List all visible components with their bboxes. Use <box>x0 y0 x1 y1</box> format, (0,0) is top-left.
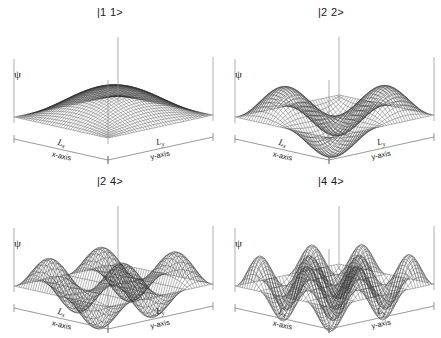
svg-text:Lx: Lx <box>277 137 288 150</box>
svg-text:Ly: Ly <box>375 136 386 149</box>
axis-frame <box>14 206 213 313</box>
dimension-lines: Lxx-axisLyy-axis <box>14 133 213 164</box>
panel-state-2-2: |2 2> ψ Lxx-axisLyy-axis <box>221 0 441 169</box>
surface-mesh <box>235 85 434 157</box>
panel-state-2-4: |2 4> ψ Lxx-axisLyy-axis <box>0 169 220 338</box>
dimension-lines: Lxx-axisLyy-axis <box>235 133 434 164</box>
svg-text:Lx: Lx <box>56 137 67 150</box>
figure-panel-grid: |1 1> ψ Lxx-axisLyy-axis |2 2> ψ Lxx-axi… <box>0 0 441 338</box>
surface-mesh <box>14 85 213 138</box>
surface-mesh <box>235 244 434 331</box>
panel-state-1-1: |1 1> ψ Lxx-axisLyy-axis <box>0 0 220 169</box>
surface-plot: Lxx-axisLyy-axis <box>8 185 220 335</box>
surface-plot: Lxx-axisLyy-axis <box>229 185 441 335</box>
svg-text:Ly: Ly <box>154 136 165 149</box>
surface-mesh <box>14 247 213 329</box>
surface-svg: Lxx-axisLyy-axis <box>229 185 441 335</box>
surface-plot: Lxx-axisLyy-axis <box>8 16 220 166</box>
panel-state-4-4: |4 4> ψ Lxx-axisLyy-axis <box>221 169 441 338</box>
svg-text:Lx: Lx <box>56 306 67 319</box>
axis-frame <box>14 37 213 144</box>
surface-svg: Lxx-axisLyy-axis <box>229 16 441 166</box>
surface-plot: Lxx-axisLyy-axis <box>229 16 441 166</box>
surface-svg: Lxx-axisLyy-axis <box>8 185 220 335</box>
surface-svg: Lxx-axisLyy-axis <box>8 16 220 166</box>
